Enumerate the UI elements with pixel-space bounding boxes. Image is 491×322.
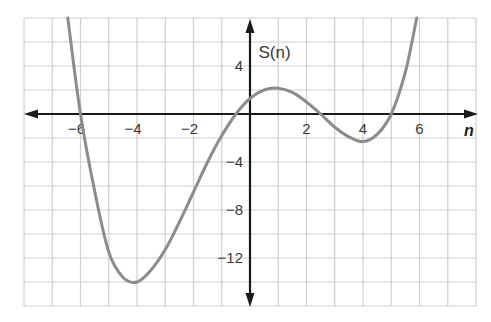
chart: −6−4−22464−4−8−12 S(n) n <box>0 0 491 322</box>
x-tick-label: 2 <box>302 120 310 137</box>
x-axis-left-arrow-icon <box>24 110 38 119</box>
y-axis-up-arrow-icon <box>246 19 255 33</box>
x-tick-label: 4 <box>359 120 367 137</box>
y-tick-label: −8 <box>226 201 243 218</box>
x-tick-label: −2 <box>181 120 198 137</box>
x-tick-label: 6 <box>415 120 423 137</box>
x-tick-label: −4 <box>124 120 141 137</box>
curve-label: S(n) <box>258 43 290 62</box>
x-axis-label: n <box>464 122 474 139</box>
y-axis-down-arrow-icon <box>246 293 255 307</box>
axes <box>24 19 478 307</box>
y-tick-label: −4 <box>226 153 243 170</box>
y-tick-label: −12 <box>218 249 243 266</box>
y-tick-label: 4 <box>235 57 243 74</box>
